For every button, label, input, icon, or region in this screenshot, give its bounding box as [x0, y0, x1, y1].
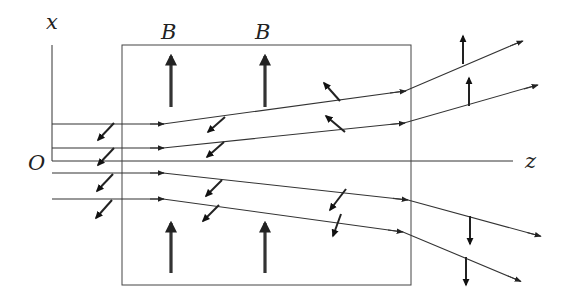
magnetic-field-arrows — [171, 56, 265, 273]
force-arrow-icon — [97, 174, 113, 191]
origin-label: O — [28, 151, 45, 175]
trajectory-3 — [52, 173, 540, 236]
z-axis-label: z — [524, 149, 537, 173]
direction-arrow-icon — [390, 91, 406, 93]
beam-focusing-diagram: x z O B B — [0, 0, 566, 298]
direction-arrow-icon — [524, 85, 538, 89]
direction-arrow-icon — [510, 41, 523, 46]
direction-arrow-icon — [527, 233, 541, 237]
field-label-b-2: B — [254, 20, 270, 44]
direction-arrow-icon — [388, 230, 403, 232]
force-arrow-icon — [203, 205, 219, 221]
axes: x z O — [28, 10, 537, 175]
field-label-b-1: B — [160, 20, 176, 44]
direction-arrow-icon — [508, 276, 521, 281]
force-arrow-icon — [96, 200, 112, 218]
direction-arrow-icon — [390, 123, 405, 125]
force-arrow-icon — [333, 214, 341, 236]
force-arrow-icon — [98, 148, 114, 165]
force-arrow-icon — [207, 142, 224, 157]
force-arrow-icon — [98, 123, 114, 140]
trajectory-2 — [52, 85, 537, 148]
force-arrow-icon — [208, 117, 225, 132]
force-arrow-icon — [324, 83, 340, 101]
force-arrow-icon — [206, 180, 222, 196]
x-axis-label: x — [46, 10, 58, 34]
